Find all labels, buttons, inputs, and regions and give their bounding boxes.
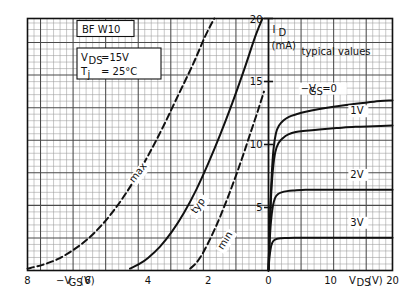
svg-text:1V: 1V [350,105,363,116]
svg-text:(V): (V) [368,275,383,286]
svg-text:j: j [87,69,91,80]
chart-canvas: 20151058642−VGS(V)01020VDS(V)ID(mA)typic… [0,0,415,304]
svg-text:0: 0 [265,275,271,286]
svg-text:typical values: typical values [302,46,371,57]
svg-text:4: 4 [145,275,151,286]
svg-text:(V): (V) [80,275,95,286]
svg-text:3V: 3V [350,217,363,228]
svg-text:8: 8 [24,275,30,286]
svg-text:=0: =0 [322,83,337,94]
svg-text:D: D [279,27,287,38]
svg-text:= 25°C: = 25°C [101,66,137,77]
svg-text:20: 20 [386,275,399,286]
svg-text:20: 20 [250,14,263,25]
svg-text:V: V [349,275,356,286]
svg-text:15: 15 [250,76,263,87]
svg-text:I: I [273,24,276,35]
svg-text:2V: 2V [350,169,363,180]
svg-text:V: V [81,52,88,63]
svg-text:GS: GS [309,86,323,97]
svg-text:2: 2 [205,275,211,286]
svg-text:(mA): (mA) [272,40,296,51]
characteristic-curve-chart: 20151058642−VGS(V)01020VDS(V)ID(mA)typic… [0,0,415,304]
svg-text:10: 10 [324,275,337,286]
svg-text:10: 10 [250,139,263,150]
svg-text:=15V: =15V [101,52,129,63]
svg-text:BF W10: BF W10 [82,24,120,35]
svg-text:5: 5 [256,202,262,213]
